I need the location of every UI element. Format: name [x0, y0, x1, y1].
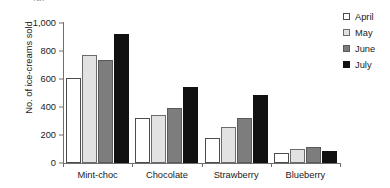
legend-item-june[interactable]: June — [343, 41, 375, 56]
bar-may-strawberry[interactable] — [221, 127, 236, 163]
bar-group — [66, 23, 129, 163]
plot-area: 02004006008001,000 — [63, 23, 340, 163]
bar-may-chocolate[interactable] — [151, 115, 166, 163]
x-axis-tick-mark — [63, 163, 64, 167]
legend-label: July — [355, 60, 372, 70]
bar-june-blueberry[interactable] — [306, 147, 321, 163]
legend-item-may[interactable]: May — [343, 25, 375, 40]
legend-swatch-icon — [343, 45, 350, 52]
y-axis-tick-mark — [59, 23, 63, 24]
y-axis-tick-mark — [59, 51, 63, 52]
bar-april-mint-choc[interactable] — [66, 78, 81, 163]
bar-chart: (a) No. of ice-creams sold 0200400600800… — [0, 0, 390, 188]
legend-swatch-icon — [343, 61, 350, 68]
bar-july-chocolate[interactable] — [183, 87, 198, 163]
bar-group — [135, 23, 198, 163]
x-axis-tick-mark — [271, 163, 272, 167]
x-axis-tick-label: Mint-choc — [77, 170, 117, 180]
legend-label: April — [355, 12, 374, 22]
bar-april-blueberry[interactable] — [274, 153, 289, 163]
clipped-figure-label: (a) — [33, 0, 45, 1]
y-axis-tick-mark — [59, 107, 63, 108]
legend-label: May — [355, 28, 373, 38]
bar-june-strawberry[interactable] — [237, 118, 252, 164]
legend-swatch-icon — [343, 29, 350, 36]
bar-may-mint-choc[interactable] — [82, 55, 97, 163]
legend-swatch-icon — [343, 13, 350, 20]
bar-july-blueberry[interactable] — [322, 151, 337, 163]
bar-may-blueberry[interactable] — [290, 149, 305, 163]
bar-june-mint-choc[interactable] — [98, 60, 113, 163]
legend-item-july[interactable]: July — [343, 57, 375, 72]
bar-june-chocolate[interactable] — [167, 108, 182, 163]
legend-label: June — [355, 44, 375, 54]
bar-group — [274, 23, 337, 163]
x-axis-tick-mark — [340, 163, 341, 167]
x-axis-tick-label: Chocolate — [146, 170, 188, 180]
y-axis-tick-mark — [59, 79, 63, 80]
bar-april-strawberry[interactable] — [205, 138, 220, 163]
x-axis-tick-mark — [202, 163, 203, 167]
bar-group — [205, 23, 268, 163]
bar-july-strawberry[interactable] — [253, 95, 268, 163]
x-axis-tick-label: Strawberry — [214, 170, 259, 180]
bar-april-chocolate[interactable] — [135, 118, 150, 163]
x-axis-tick-label: Blueberry — [285, 170, 325, 180]
legend: AprilMayJuneJuly — [343, 9, 375, 73]
y-axis-tick-mark — [59, 135, 63, 136]
bar-july-mint-choc[interactable] — [114, 34, 129, 163]
legend-item-april[interactable]: April — [343, 9, 375, 24]
x-axis-tick-mark — [132, 163, 133, 167]
